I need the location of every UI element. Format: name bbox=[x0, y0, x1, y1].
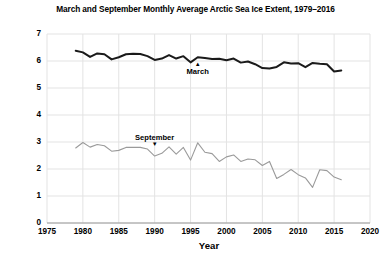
x-tick-label: 1975 bbox=[27, 227, 67, 236]
series-line-september bbox=[76, 143, 342, 188]
series-annotation-march: ▲March bbox=[158, 62, 238, 76]
y-tick-label: 6 bbox=[21, 56, 41, 65]
chart-container: March and September Monthly Average Arct… bbox=[0, 0, 391, 259]
series-annotation-september: September▼ bbox=[115, 133, 195, 147]
x-tick-label: 2010 bbox=[278, 227, 318, 236]
x-tick-label: 1990 bbox=[135, 227, 175, 236]
x-axis-title: Year bbox=[47, 240, 371, 251]
x-tick-label: 2020 bbox=[350, 227, 390, 236]
y-tick-label: 3 bbox=[21, 137, 41, 146]
y-tick-label: 7 bbox=[21, 29, 41, 38]
y-tick-label: 5 bbox=[21, 83, 41, 92]
x-tick-label: 1995 bbox=[171, 227, 211, 236]
annotation-label: March bbox=[187, 67, 209, 76]
x-tick-label: 2000 bbox=[206, 227, 246, 236]
annotation-caret-icon: ▼ bbox=[115, 142, 195, 147]
x-tick-label: 2005 bbox=[242, 227, 282, 236]
y-tick-label: 2 bbox=[21, 164, 41, 173]
x-tick-label: 1985 bbox=[99, 227, 139, 236]
y-tick-label: 4 bbox=[21, 110, 41, 119]
y-tick-label: 1 bbox=[21, 191, 41, 200]
x-tick-label: 2015 bbox=[314, 227, 354, 236]
y-tick-label: 0 bbox=[21, 218, 41, 227]
plot-area bbox=[0, 0, 391, 259]
x-tick-label: 1980 bbox=[63, 227, 103, 236]
